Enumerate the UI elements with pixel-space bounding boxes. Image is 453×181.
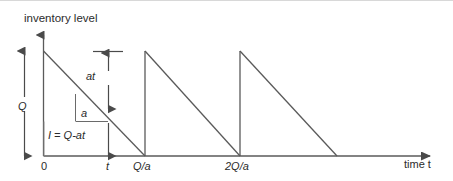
inventory-equation-label: I = Q-at <box>48 130 85 141</box>
x-tick-label-cycle-two: 2Q/a <box>225 161 249 172</box>
slope-rate-label: a <box>81 108 87 119</box>
x-tick-label-cycle-one: Q/a <box>133 161 151 172</box>
axis-group <box>44 35 431 156</box>
depleted-amount-annotation <box>93 52 123 110</box>
x-tick-label-time-t: t <box>106 161 109 172</box>
sawtooth-plot <box>0 1 453 181</box>
x-axis-title-text: time t <box>404 158 431 170</box>
inventory-sawtooth-figure: inventory level time t Q at a I = Q-at 0… <box>0 0 453 181</box>
depletion-ramp-2 <box>145 51 240 156</box>
x-axis-title: time t <box>404 159 431 170</box>
order-quantity-label: Q <box>18 101 27 112</box>
inventory-curve <box>44 51 338 156</box>
depletion-ramp-3 <box>240 51 337 156</box>
depleted-amount-label: at <box>86 71 95 82</box>
y-axis-title: inventory level <box>24 13 98 25</box>
x-tick-label-origin: 0 <box>41 161 47 172</box>
